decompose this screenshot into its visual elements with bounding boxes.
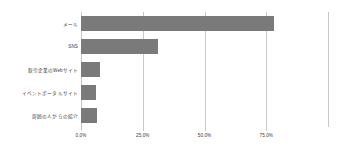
bar — [81, 108, 97, 123]
category-axis-labels: メールSNS取引企業のWebサイトイベントポータルサイト周囲の人からの紹介 — [0, 12, 78, 127]
x-tick-mark — [266, 127, 267, 131]
x-tick-mark — [143, 127, 144, 131]
bar-row — [81, 104, 97, 127]
category-label: SNS — [68, 35, 78, 58]
bar-row — [81, 35, 158, 58]
gridline — [328, 12, 329, 127]
bar — [81, 85, 96, 100]
bar-row — [81, 12, 274, 35]
x-tick-label: 25.0% — [136, 133, 150, 138]
bar — [81, 62, 100, 77]
x-tick-mark — [81, 127, 82, 131]
x-tick-mark — [205, 127, 206, 131]
bar-row — [81, 58, 100, 81]
bar-row — [81, 81, 96, 104]
bar-chart: メールSNS取引企業のWebサイトイベントポータルサイト周囲の人からの紹介 0.… — [0, 0, 345, 149]
x-tick-label: 50.0% — [198, 133, 212, 138]
bar — [81, 39, 158, 54]
x-tick-label: 75.0% — [259, 133, 273, 138]
bar — [81, 16, 274, 31]
category-label: 取引企業のWebサイト — [28, 58, 78, 81]
category-label: メール — [63, 12, 78, 35]
category-label: 周囲の人からの紹介 — [32, 104, 78, 127]
category-label: イベントポータルサイト — [22, 81, 78, 104]
plot-area — [81, 12, 328, 127]
x-tick-label: 0.0% — [76, 133, 87, 138]
